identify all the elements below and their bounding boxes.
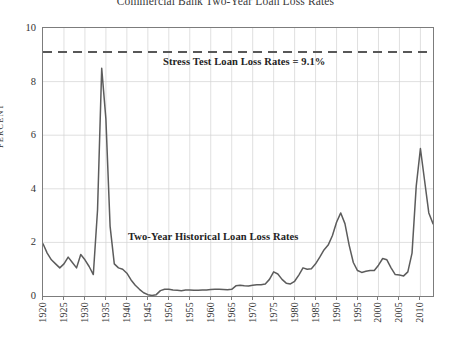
x-tick-label: 1925 [58,302,69,323]
x-tick-label: 2010 [414,302,425,323]
y-tick-label: 8 [10,75,36,86]
x-tick-label: 1960 [205,302,216,323]
x-tick-label: 1935 [100,302,111,323]
x-tick-label: 1945 [142,302,153,323]
y-axis-title: PERCENT [0,103,5,148]
y-tick-label: 6 [10,129,36,140]
x-tick-label: 1940 [121,302,132,323]
x-tick-label: 1975 [268,302,279,323]
x-tick-label: 1950 [163,302,174,323]
x-tick-label: 1980 [289,302,300,323]
annotation-historical-label: Two-Year Historical Loan Loss Rates [128,231,299,242]
y-tick-label: 4 [10,182,36,193]
x-tick-label: 2005 [393,302,404,323]
x-tick-label: 1990 [331,302,342,323]
y-tick-label: 2 [10,236,36,247]
x-tick-label: 1995 [352,302,363,323]
x-tick-label: 1930 [79,302,90,323]
chart-container: Commercial Bank Two-Year Loan Loss Rates… [0,0,451,348]
chart-title: Commercial Bank Two-Year Loan Loss Rates [0,0,451,7]
x-tick-label: 1965 [226,302,237,323]
y-tick-label: 10 [10,22,36,33]
plot-area [42,27,434,297]
x-tick-label: 1955 [184,302,195,323]
x-tick-label: 2000 [372,302,383,323]
x-tick-label: 1920 [37,302,48,323]
annotation-stress-test-label: Stress Test Loan Loss Rates = 9.1% [163,56,325,67]
x-tick-label: 1970 [247,302,258,323]
chart-plot-svg [43,28,433,296]
x-tick-label: 1985 [310,302,321,323]
y-tick-label: 0 [10,290,36,301]
